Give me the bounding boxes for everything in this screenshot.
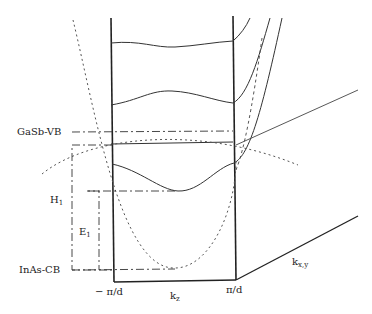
gasb-vb-level xyxy=(72,131,233,132)
gasb-vb-parabola xyxy=(42,139,298,174)
e1-bracket xyxy=(86,191,175,270)
kxy-label: kx,y xyxy=(292,256,308,269)
dispersion-3 xyxy=(233,18,250,41)
h1-label: H1 xyxy=(50,194,63,207)
inas-cb-label: InAs-CB xyxy=(19,264,60,275)
kz-axis xyxy=(114,280,236,282)
dispersion-1 xyxy=(234,18,282,163)
kxy-axis xyxy=(236,216,358,280)
miniband-3 xyxy=(111,41,233,47)
band-diagram: GaSb-VB InAs-CB H1 E1 − π/d π/d kz kx,y xyxy=(0,0,372,314)
e1-label: E1 xyxy=(79,226,91,239)
inas-cb-parabola xyxy=(73,20,236,268)
gasb-vb-label: GaSb-VB xyxy=(17,126,61,137)
dispersion-2 xyxy=(233,18,270,103)
miniband-2 xyxy=(111,91,233,105)
diagonal-line xyxy=(236,90,358,145)
pi-d-label: π/d xyxy=(226,284,243,295)
miniband-1 xyxy=(112,163,234,191)
gasb-level-line xyxy=(111,142,233,144)
kz-label: kz xyxy=(170,290,180,303)
h1-bracket xyxy=(72,145,112,270)
neg-pi-d-label: − π/d xyxy=(95,286,123,297)
zone-boundary-right xyxy=(233,16,236,280)
zone-boundary-left xyxy=(111,18,114,282)
